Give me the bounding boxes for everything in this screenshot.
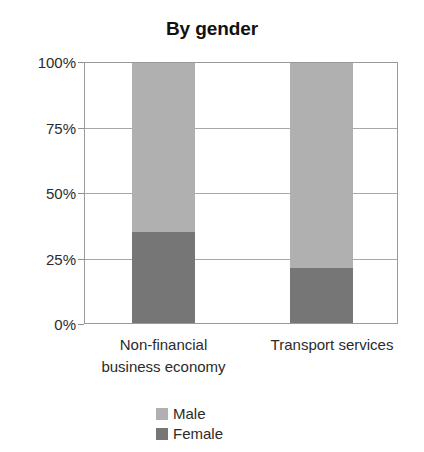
legend-item-female[interactable]: Female xyxy=(156,425,268,442)
chart-container: By gender 100% 75% 50% 25% 0% Non-financ… xyxy=(0,0,424,452)
bar-stack-non-financial-business-economy[interactable] xyxy=(132,63,195,323)
x-axis-label-line-2: business economy xyxy=(56,356,271,378)
y-tick-label-0: 0% xyxy=(6,316,76,333)
plot-area xyxy=(84,62,398,324)
y-tick-mark-0 xyxy=(78,324,84,325)
x-axis-label-non-financial-business-economy: Non-financial business economy xyxy=(56,334,271,378)
bar-segment-male[interactable] xyxy=(290,63,353,268)
y-tick-label-50: 50% xyxy=(6,185,76,202)
bar-segment-male[interactable] xyxy=(132,63,195,232)
legend-label-female: Female xyxy=(173,425,223,442)
chart-title: By gender xyxy=(0,18,424,40)
x-axis-label-line-1: Non-financial xyxy=(56,334,271,356)
bar-segment-female[interactable] xyxy=(132,232,195,323)
y-tick-label-100: 100% xyxy=(6,54,76,71)
x-axis-label-line-1: Transport services xyxy=(242,334,422,356)
y-tick-label-25: 25% xyxy=(6,251,76,268)
y-tick-label-75: 75% xyxy=(6,120,76,137)
x-axis-label-transport-services: Transport services xyxy=(242,334,422,356)
legend-item-male[interactable]: Male xyxy=(156,405,268,422)
chart-legend: Male Female xyxy=(0,405,424,442)
bar-segment-female[interactable] xyxy=(290,268,353,323)
legend-swatch-female-icon xyxy=(156,428,168,440)
bar-stack-transport-services[interactable] xyxy=(290,63,353,323)
legend-label-male: Male xyxy=(173,405,206,422)
legend-swatch-male-icon xyxy=(156,408,168,420)
